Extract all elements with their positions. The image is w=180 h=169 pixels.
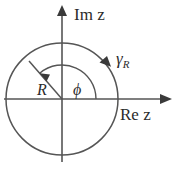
real-axis-label: Re z: [120, 106, 151, 123]
radius-label: R: [37, 82, 47, 98]
complex-plane-contour-figure: Im z Re z γR R ϕ: [0, 0, 180, 169]
imaginary-axis-group: [57, 5, 67, 162]
angle-label: ϕ: [73, 82, 81, 98]
real-axis-group: [4, 94, 172, 104]
contour-label-subscript: R: [123, 58, 130, 70]
real-axis-arrowhead: [160, 94, 172, 104]
contour-label: γR: [116, 50, 129, 70]
contour-label-symbol: γ: [116, 49, 123, 68]
angle-label-text: ϕ: [73, 81, 81, 98]
contour-direction-arrowhead: [100, 56, 112, 67]
diagram-canvas: [0, 0, 180, 169]
imaginary-axis-arrowhead: [57, 5, 67, 16]
imaginary-axis-label: Im z: [74, 6, 105, 23]
real-axis-label-text: Re z: [120, 105, 151, 124]
radius-label-text: R: [37, 81, 47, 98]
imaginary-axis-label-text: Im z: [74, 5, 105, 24]
